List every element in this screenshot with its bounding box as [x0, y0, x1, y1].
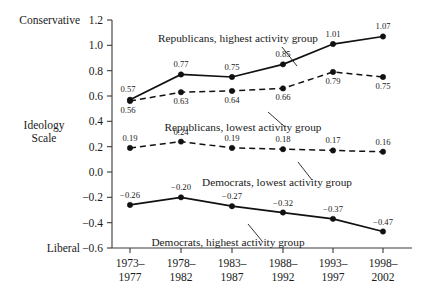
y-tick-label: 0.4 [89, 115, 104, 127]
y-tick-label: −0.4 [82, 217, 103, 229]
series-annotation-label: Republicans, highest activity group [158, 32, 318, 44]
y-tick-label: 0.8 [89, 65, 104, 77]
x-tick-label: 1973– [116, 257, 145, 269]
y-tick-label: 1.0 [89, 39, 104, 51]
x-tick-label: 2002 [372, 271, 395, 283]
data-point-label: −0.27 [222, 191, 243, 201]
x-tick-label: 1988– [269, 257, 298, 269]
series-annotation-label: Democrats, highest activity group [151, 236, 304, 248]
data-point-label: −0.37 [323, 204, 344, 214]
data-point-marker [127, 98, 132, 103]
data-point-label: 0.63 [173, 96, 188, 106]
y-tick-label: 0.0 [89, 166, 104, 178]
x-tick-label: 1978– [167, 257, 196, 269]
data-point-marker [229, 74, 234, 79]
data-point-label: −0.47 [373, 217, 394, 227]
data-point-label: 0.79 [325, 76, 340, 86]
data-point-label: −0.26 [120, 190, 141, 200]
data-point-marker [127, 145, 132, 150]
data-point-marker [330, 69, 335, 74]
axis-label-liberal: Liberal [47, 242, 80, 254]
data-point-label: 0.19 [122, 133, 137, 143]
data-point-marker [229, 145, 234, 150]
data-point-marker [127, 202, 132, 207]
data-point-label: −0.20 [171, 182, 191, 192]
data-point-label: 1.07 [375, 21, 391, 31]
ideology-scale-line-chart: 1.21.00.80.60.40.20.0−0.2−0.4−0.61973–19… [0, 0, 424, 303]
data-point-label: 1.01 [325, 29, 340, 39]
x-tick-label: 1983– [218, 257, 247, 269]
x-tick-label: 1982 [170, 271, 193, 283]
data-point-marker [380, 34, 385, 39]
axis-label-conservative: Conservative [19, 14, 80, 26]
data-point-marker [178, 90, 183, 95]
data-point-label: 0.19 [224, 133, 239, 143]
data-point-marker [280, 210, 285, 215]
data-point-marker [178, 195, 183, 200]
x-tick-label: 1998– [369, 257, 398, 269]
data-point-label: 0.75 [375, 81, 390, 91]
data-point-marker [178, 72, 183, 77]
data-point-marker [330, 41, 335, 46]
data-point-label: 0.75 [224, 62, 239, 72]
x-tick-label: 1993– [319, 257, 348, 269]
data-point-marker [178, 139, 183, 144]
data-point-label: 0.77 [173, 59, 189, 69]
data-point-marker [280, 86, 285, 91]
series-line [130, 36, 383, 99]
x-tick-label: 1987 [221, 271, 244, 283]
y-tick-label: 0.6 [89, 90, 104, 102]
data-point-label: 0.17 [325, 135, 341, 145]
x-tick-label: 1977 [119, 271, 142, 283]
data-point-marker [229, 88, 234, 93]
series-annotation-label: Republicans, lowest activity group [165, 121, 322, 133]
y-tick-label: −0.2 [82, 191, 103, 203]
data-point-marker [380, 149, 385, 154]
data-point-label: 0.56 [120, 105, 136, 115]
y-tick-label: −0.6 [82, 242, 103, 254]
data-point-marker [280, 62, 285, 67]
data-point-label: 0.57 [120, 84, 136, 94]
data-point-marker [380, 229, 385, 234]
y-axis-title-line2: Scale [32, 132, 57, 144]
data-point-label: 0.18 [275, 134, 290, 144]
data-point-label: 0.66 [275, 92, 291, 102]
y-axis-title-line1: Ideology [24, 119, 65, 132]
data-point-marker [280, 147, 285, 152]
series-line [130, 72, 383, 101]
series-line [130, 197, 383, 231]
x-tick-label: 1997 [322, 271, 345, 283]
data-point-label: 0.64 [224, 95, 240, 105]
y-tick-label: 1.2 [89, 14, 104, 26]
data-point-label: 0.16 [375, 137, 391, 147]
data-point-marker [380, 74, 385, 79]
data-point-marker [330, 216, 335, 221]
data-point-marker [229, 204, 234, 209]
chart-canvas: 1.21.00.80.60.40.20.0−0.2−0.4−0.61973–19… [0, 0, 424, 303]
series-annotation-label: Democrats, lowest activity group [202, 176, 352, 188]
data-point-label: −0.32 [273, 198, 293, 208]
data-point-marker [330, 148, 335, 153]
y-tick-label: 0.2 [89, 141, 104, 153]
series-line [130, 142, 383, 152]
x-tick-label: 1992 [272, 271, 295, 283]
